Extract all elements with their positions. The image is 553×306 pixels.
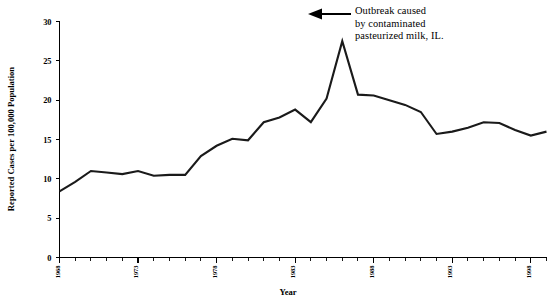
y-axis-title: Reported Cases per 100,000 Population <box>6 67 16 211</box>
chart-canvas: 051015202530 196819731978198319881993199… <box>0 0 553 306</box>
y-tick-label: 15 <box>43 136 51 145</box>
left-arrow-icon <box>308 7 352 21</box>
annotation-line-3: pasteurized milk, IL. <box>355 30 545 43</box>
y-axis-ticks <box>56 22 60 258</box>
data-series-line <box>60 41 547 191</box>
y-tick-label: 5 <box>47 214 51 223</box>
x-tick-label: 1978 <box>211 266 218 279</box>
x-tick-label: 1973 <box>132 266 139 279</box>
x-tick-label: 1993 <box>446 266 453 279</box>
x-axis-tick-labels: 1968197319781983198819931998 <box>54 266 532 279</box>
y-tick-label: 25 <box>43 57 51 66</box>
x-tick-label: 1983 <box>289 266 296 279</box>
y-tick-label: 0 <box>47 254 51 263</box>
outbreak-annotation: Outbreak caused by contaminated pasteuri… <box>355 5 545 43</box>
annotation-line-1: Outbreak caused <box>355 5 545 18</box>
x-axis-title: Year <box>279 287 296 297</box>
x-tick-label: 1968 <box>54 266 61 279</box>
annotation-line-2: by contaminated <box>355 18 545 31</box>
y-axis-tick-labels: 051015202530 <box>43 18 51 263</box>
x-tick-label: 1998 <box>525 266 532 279</box>
y-tick-label: 20 <box>43 96 51 105</box>
y-tick-label: 30 <box>43 18 51 27</box>
x-axis-ticks <box>60 258 547 263</box>
line-chart: 051015202530 196819731978198319881993199… <box>0 0 553 306</box>
annotation-arrow <box>308 7 352 21</box>
x-tick-label: 1988 <box>368 266 375 279</box>
y-tick-label: 10 <box>43 175 51 184</box>
axes <box>60 22 547 258</box>
